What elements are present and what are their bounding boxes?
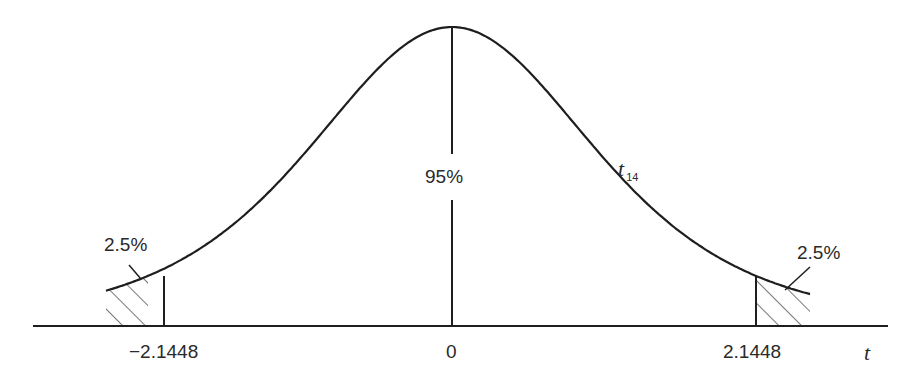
center-area-label: 95% (425, 166, 463, 188)
curve-label-subscript: 14 (626, 171, 638, 183)
left-label-leader (129, 265, 141, 279)
right-label-leader (785, 267, 810, 290)
density-curve (106, 27, 810, 294)
x-axis-variable-label: t (864, 340, 870, 366)
curve-label: t14 (618, 156, 638, 183)
tick-label-zero: 0 (446, 341, 457, 363)
right-tail-label: 2.5% (797, 242, 840, 264)
left-tail-label: 2.5% (104, 234, 147, 256)
tick-label-right: 2.1448 (723, 341, 781, 363)
tick-label-left: −2.1448 (129, 341, 198, 363)
curve-label-main: t (618, 156, 624, 181)
